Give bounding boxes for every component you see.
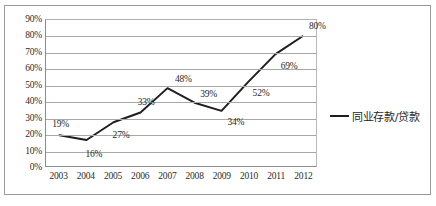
x-axis-tick-label: 2005 [104,170,122,182]
y-axis-tick-label: 20% [6,129,42,139]
plot-area [45,19,317,167]
legend-item-label: 同业存款/贷款 [352,108,420,124]
y-axis-tick-label: 50% [6,80,42,90]
y-axis-labels: 90%80%70%60%50%40%30%20%10%0% [5,19,42,167]
y-axis-tick-label: 80% [6,30,42,40]
gridline [46,102,316,103]
y-axis-tick-label: 10% [6,146,42,156]
x-axis-tick-label: 2011 [267,170,285,182]
x-axis-labels: 2003200420052006200720082009201020112012 [45,170,317,186]
chart-legend: 同业存款/贷款 [330,108,420,124]
data-point-label: 33% [138,97,155,107]
x-axis-tick-label: 2008 [185,170,203,182]
gridline [46,36,316,37]
data-point-label: 34% [227,117,244,127]
gridline [46,86,316,87]
x-axis-tick-label: 2007 [158,170,176,182]
x-axis-tick-label: 2012 [294,170,312,182]
gridline [46,135,316,136]
x-axis-tick-label: 2006 [131,170,149,182]
y-axis-tick-label: 70% [6,47,42,57]
series-line-chart [46,20,316,166]
y-axis-tick-label: 90% [6,14,42,24]
x-axis-tick-label: 2003 [49,170,67,182]
gridline [46,119,316,120]
y-axis-tick-label: 40% [6,96,42,106]
data-point-label: 80% [309,21,326,31]
gridline [46,53,316,54]
y-axis-tick-label: 60% [6,63,42,73]
data-point-label: 27% [113,130,130,140]
legend-line-marker-icon [330,115,349,117]
data-point-label: 69% [281,61,298,71]
x-axis-tick-label: 2010 [240,170,258,182]
x-axis-tick-label: 2009 [213,170,231,182]
y-axis-tick-label: 30% [6,113,42,123]
gridline [46,69,316,70]
data-point-label: 39% [200,89,217,99]
data-point-label: 19% [52,119,69,129]
y-axis-tick-label: 0% [6,162,42,172]
x-axis-tick-label: 2004 [77,170,95,182]
data-point-label: 16% [85,149,102,159]
data-point-label: 52% [253,88,270,98]
data-point-label: 48% [175,74,192,84]
chart-figure: 90%80%70%60%50%40%30%20%10%0% 19%16%27%3… [4,5,431,195]
